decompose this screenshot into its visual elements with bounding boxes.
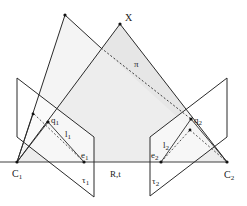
label-Rt: R,t [110, 169, 121, 179]
point-q1 [46, 120, 49, 123]
label-C2: C2 [224, 169, 235, 182]
label-C1: C1 [12, 168, 23, 181]
point-X [118, 22, 121, 25]
epipolar-diagram: X π C1 C2 q1 q2 l1 l2 e1 e2 τ1 τ2 R,t [0, 0, 247, 206]
point-q1b [32, 113, 35, 116]
label-X: X [125, 12, 133, 23]
point-e2 [159, 160, 162, 163]
point-C2 [225, 160, 228, 163]
point-C1 [15, 160, 18, 163]
point-q2 [189, 117, 192, 120]
label-pi: π [134, 59, 139, 69]
point-top [63, 13, 66, 16]
point-q2b [189, 129, 192, 132]
